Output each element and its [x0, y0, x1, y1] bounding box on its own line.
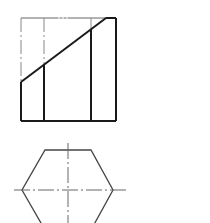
projection-drawing: [0, 0, 210, 223]
front-cut-line: [21, 18, 106, 82]
top-view: [14, 143, 126, 223]
front-view: [21, 18, 116, 121]
